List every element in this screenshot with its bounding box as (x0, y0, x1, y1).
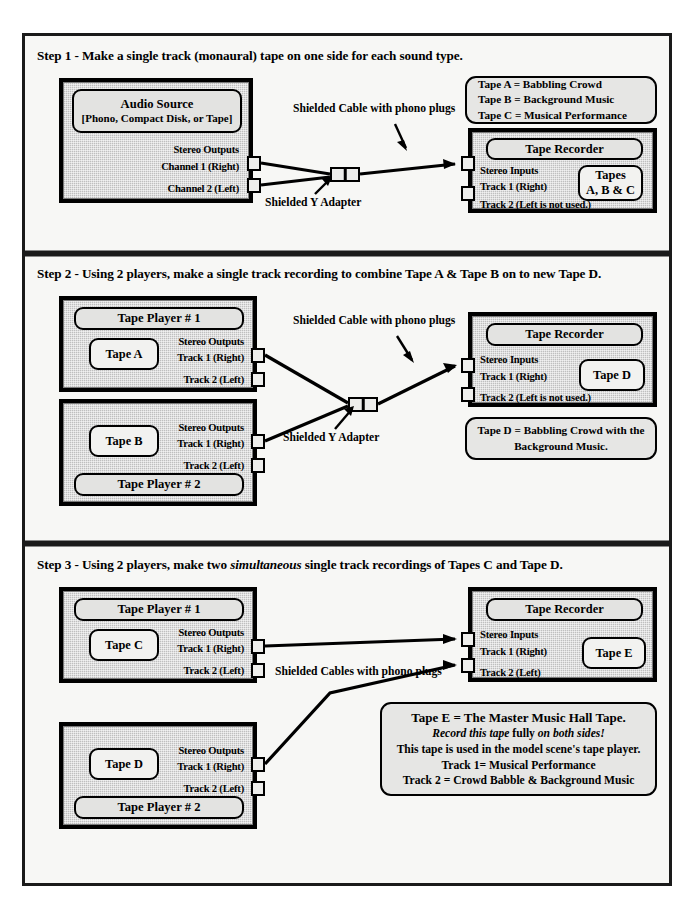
audio-source-subtitle: [Phono, Compact Disk, or Tape] (82, 112, 233, 125)
recorder-3-input-track2-jack[interactable] (461, 658, 475, 673)
tape-recorder-device-2: Tape Recorder Stereo Inputs Track 1 (Rig… (468, 312, 657, 407)
tape-d-text-player: Tape D (105, 757, 143, 772)
recorder-1-input-track2-jack[interactable] (461, 186, 475, 201)
tape-a-text: Tape A (105, 347, 142, 362)
tape-e-text-recorder: Tape E (595, 646, 632, 661)
cable-label-arrowhead-1 (397, 140, 407, 151)
step-3-master-note: Tape E = The Master Music Hall Tape. Rec… (380, 702, 657, 796)
tapes-abc-line1: Tapes (595, 168, 626, 183)
step-3-cable-label: Shielded Cables with phono plugs (275, 665, 442, 678)
player2-track2-label-step3: Track 2 (Left) (183, 783, 244, 794)
step-3-panel: Step 3 - Using 2 players, make two simul… (25, 545, 669, 883)
step-1-title: Step 1 - Make a single track (monaural) … (37, 48, 463, 64)
tape-recorder-title-3: Tape Recorder (525, 602, 603, 617)
step-2-panel: Step 2 - Using 2 players, make a single … (25, 254, 669, 542)
step-2-adapter-label: Shielded Y Adapter (283, 431, 379, 444)
tape-recorder-plate-1: Tape Recorder (486, 138, 643, 160)
player2-output-track1-jack-step3[interactable] (251, 757, 265, 772)
tape-recorder-device-1: Tape Recorder Stereo Inputs Track 1 (Rig… (468, 128, 657, 213)
stereo-inputs-label-3: Stereo Inputs (480, 629, 538, 640)
step-2-result-note: Tape D = Babbling Crowd with the Backgro… (465, 417, 657, 460)
player2-track2-label-step2: Track 2 (Left) (183, 460, 244, 471)
legend-tape-a: Tape A = Babbling Crowd (478, 77, 602, 92)
recorder-track-2-label-1: Track 2 (Left is not used.) (480, 199, 591, 210)
channel-2-label: Channel 2 (Left) (167, 183, 239, 194)
tapes-abc-plate: Tapes A, B & C (578, 165, 643, 201)
tape-d-plate-recorder: Tape D (579, 359, 645, 391)
player1-output-track1-jack-step3[interactable] (251, 639, 265, 654)
tape-player-1-header-text-step2: Tape Player # 1 (118, 311, 201, 326)
step-3-title-italic: simultaneous (230, 557, 301, 572)
player2-track1-label-step2: Track 1 (Right) (177, 438, 244, 449)
tape-c-text: Tape C (105, 638, 143, 653)
tape-b-text: Tape B (105, 434, 142, 449)
player1-output-track2-jack-step2[interactable] (251, 372, 265, 387)
recorder-track-1-label-2: Track 1 (Right) (480, 371, 547, 382)
audio-source-device: Audio Source [Phono, Compact Disk, or Ta… (59, 78, 253, 203)
tape-d-plate-player: Tape D (89, 748, 159, 780)
recorder-2-input-track2-jack[interactable] (461, 387, 475, 402)
tape-player-1-header-step2: Tape Player # 1 (74, 307, 244, 330)
audio-source-port-channel1-jack[interactable] (247, 156, 261, 171)
step-2-title: Step 2 - Using 2 players, make a single … (37, 266, 601, 282)
tape-player-1-device-step3: Tape Player # 1 Tape C Stereo Outputs Tr… (59, 587, 257, 683)
recorder-1-input-track1-jack[interactable] (461, 156, 475, 171)
step-1-cable-label: Shielded Cable with phono plugs (293, 102, 455, 115)
shielded-y-adapter-1 (330, 167, 360, 182)
cable-label-arrowhead-2 (403, 351, 414, 363)
stereo-inputs-label-2: Stereo Inputs (480, 354, 538, 365)
step-3-title-b: single track recordings of Tapes C and T… (302, 557, 563, 572)
player2-output-track2-jack-step3[interactable] (251, 781, 265, 796)
player2-output-track1-jack-step2[interactable] (251, 434, 265, 449)
master-note-line4: Track 1= Musical Performance (441, 758, 595, 774)
audio-source-port-channel2-jack[interactable] (247, 178, 261, 193)
player1-outputs-label-step3: Stereo Outputs (178, 627, 244, 638)
player1-track1-label-step2: Track 1 (Right) (177, 352, 244, 363)
recorder-track-2-label-2: Track 2 (Left is not used.) (480, 392, 591, 403)
tape-player-1-device-step2: Tape Player # 1 Tape A Stereo Outputs Tr… (59, 296, 257, 392)
stereo-inputs-label-1: Stereo Inputs (480, 165, 538, 176)
cable-arrowhead-3b (443, 660, 457, 670)
tape-player-2-footer-step2: Tape Player # 2 (74, 473, 244, 496)
tape-player-2-footer-step3: Tape Player # 2 (74, 796, 244, 819)
step-3-title: Step 3 - Using 2 players, make two simul… (37, 557, 563, 573)
tape-recorder-title-2: Tape Recorder (525, 327, 603, 342)
tapes-abc-line2: A, B & C (586, 183, 635, 198)
master-note-line1: Tape E = The Master Music Hall Tape. (411, 709, 625, 727)
tape-c-plate: Tape C (89, 629, 159, 661)
step-1-tape-legend: Tape A = Babbling Crowd Tape B = Backgro… (465, 76, 657, 124)
player1-track2-label-step3: Track 2 (Left) (183, 665, 244, 676)
legend-tape-c: Tape C = Musical Performance (478, 108, 627, 123)
player1-output-track2-jack-step3[interactable] (251, 663, 265, 678)
cable-arrowhead-2 (443, 363, 457, 373)
step-2-result-line1: Tape D = Babbling Crowd with the (478, 423, 645, 438)
legend-tape-b: Tape B = Background Music (478, 92, 614, 107)
step-2-cable-label: Shielded Cable with phono plugs (293, 314, 455, 327)
player2-output-track2-jack-step2[interactable] (251, 458, 265, 473)
master-note-line2-plain: fully (509, 727, 537, 740)
player1-output-track1-jack-step2[interactable] (251, 348, 265, 363)
master-note-line3: This tape is used in the model scene's t… (397, 742, 641, 758)
tape-b-plate: Tape B (89, 425, 159, 457)
recorder-track-1-label-1: Track 1 (Right) (480, 181, 547, 192)
step-1-panel: Step 1 - Make a single track (monaural) … (25, 36, 669, 251)
diagram-frame: Step 1 - Make a single track (monaural) … (22, 33, 672, 886)
tape-d-text-recorder: Tape D (593, 368, 631, 383)
step-3-title-a: Step 3 - Using 2 players, make two (37, 557, 230, 572)
audio-source-plate: Audio Source [Phono, Compact Disk, or Ta… (72, 89, 242, 133)
cable-arrowhead-3a (443, 634, 457, 644)
tape-recorder-plate-3: Tape Recorder (486, 598, 643, 621)
master-note-line5: Track 2 = Crowd Babble & Background Musi… (403, 773, 635, 789)
tape-player-2-device-step2: Tape B Stereo Outputs Track 1 (Right) Tr… (59, 399, 257, 506)
master-note-line2-italic-b: on both sides! (538, 727, 605, 740)
recorder-3-input-track1-jack[interactable] (461, 632, 475, 647)
player2-outputs-label-step3: Stereo Outputs (178, 745, 244, 756)
tape-e-plate-recorder: Tape E (582, 637, 646, 669)
player1-outputs-label-step2: Stereo Outputs (178, 336, 244, 347)
tape-player-2-footer-text-step2: Tape Player # 2 (118, 477, 201, 492)
step-1-adapter-label: Shielded Y Adapter (265, 196, 361, 209)
player2-track1-label-step3: Track 1 (Right) (177, 761, 244, 772)
recorder-2-input-track1-jack[interactable] (461, 358, 475, 373)
recorder-track-1-label-3: Track 1 (Right) (480, 646, 547, 657)
audio-source-title: Audio Source (121, 97, 194, 112)
